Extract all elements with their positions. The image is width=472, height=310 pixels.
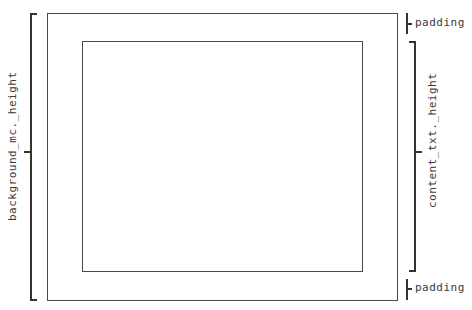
padding-bottom-label: padding — [415, 281, 465, 294]
right-height-label: content_txt._height — [426, 73, 439, 208]
padding-top-label: padding — [415, 16, 465, 29]
left-height-label: background_mc._height — [6, 71, 19, 221]
inner-box-content-txt — [82, 41, 363, 272]
